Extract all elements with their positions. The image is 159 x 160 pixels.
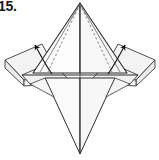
step-number-label: 15. [0,0,17,14]
main-front-triangle-left [33,3,80,73]
main-front-triangle-right [80,3,127,73]
origami-diagram: 15. [0,0,159,160]
origami-illustration [0,0,159,160]
